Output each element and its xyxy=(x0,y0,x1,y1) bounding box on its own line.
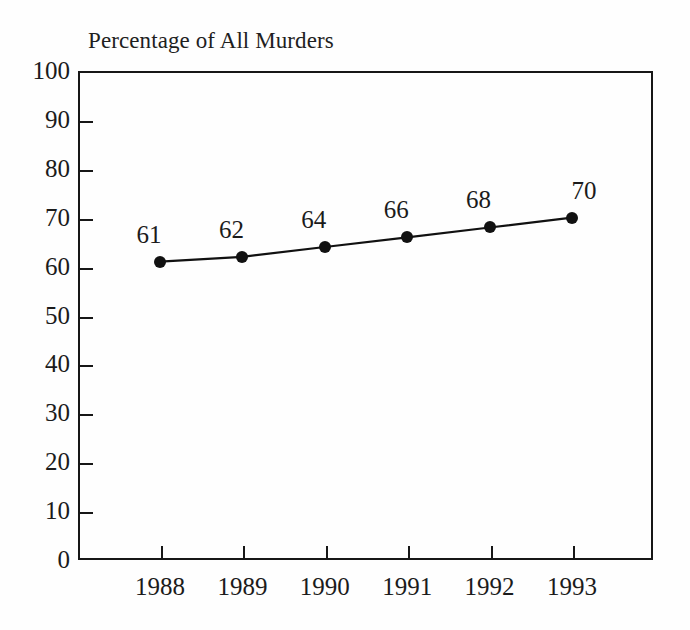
chart-figure: Percentage of All Murders 10090807060504… xyxy=(0,0,690,630)
data-line xyxy=(0,0,690,630)
